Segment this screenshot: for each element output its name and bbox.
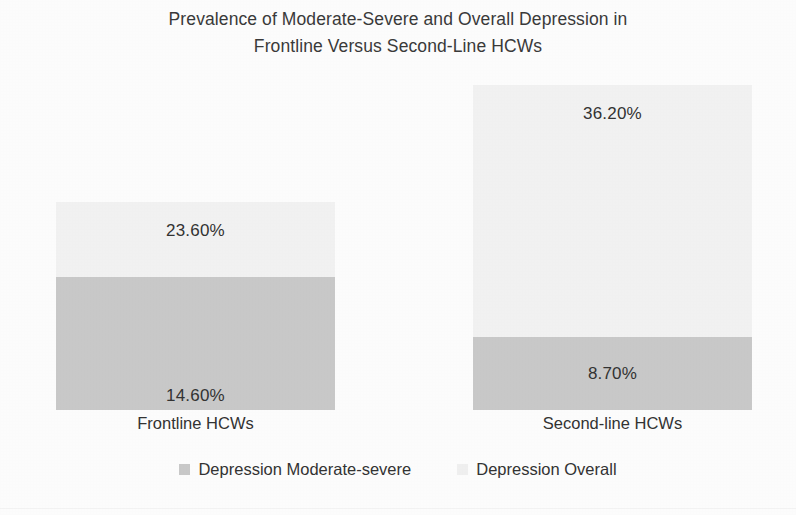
legend-label-moderate-severe: Depression Moderate-severe — [198, 460, 411, 479]
chart-legend: Depression Moderate-severe Depression Ov… — [0, 460, 796, 479]
bar-value-label-overall-frontline: 23.60% — [56, 221, 335, 241]
chart-figure: Prevalence of Moderate-Severe and Overal… — [0, 0, 796, 515]
legend-item-overall[interactable]: Depression Overall — [457, 460, 616, 479]
legend-item-moderate-severe[interactable]: Depression Moderate-severe — [179, 460, 411, 479]
category-label-frontline-hcws: Frontline HCWs — [56, 414, 335, 433]
bar-frontline-hcws: 23.60% 14.60% — [56, 202, 335, 410]
legend-label-overall: Depression Overall — [476, 460, 616, 479]
plot-area: 23.60% 14.60% 36.20% 8.70% — [0, 0, 796, 410]
bar-second-line-hcws: 36.20% 8.70% — [473, 85, 752, 410]
category-axis: Frontline HCWs Second-line HCWs — [0, 414, 796, 444]
bar-value-label-overall-second-line: 36.20% — [473, 104, 752, 124]
category-label-second-line-hcws: Second-line HCWs — [473, 414, 752, 433]
bottom-divider — [0, 508, 796, 509]
bar-value-label-moderate-severe-second-line: 8.70% — [473, 364, 752, 384]
bar-value-label-moderate-severe-frontline: 14.60% — [56, 386, 335, 406]
legend-swatch-icon-overall — [457, 464, 468, 475]
legend-swatch-icon-moderate-severe — [179, 464, 190, 475]
